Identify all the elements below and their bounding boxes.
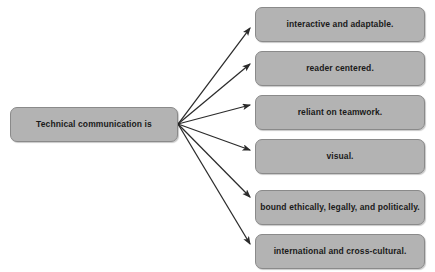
target-node-label: international and cross-cultural.: [274, 247, 407, 257]
target-node-international-and-cross-cultural[interactable]: international and cross-cultural.: [255, 234, 425, 269]
arrow-to-target-3: [178, 124, 250, 150]
target-node-reliant-on-teamwork[interactable]: reliant on teamwork.: [255, 95, 425, 130]
target-node-reader-centered[interactable]: reader centered.: [255, 51, 425, 86]
source-node[interactable]: Technical communication is: [10, 107, 178, 142]
arrow-to-target-4: [178, 124, 250, 197]
target-node-label: reliant on teamwork.: [298, 108, 383, 118]
diagram-canvas: Technical communication is interactive a…: [0, 0, 435, 272]
target-node-bound-ethically-legally-politically[interactable]: bound ethically, legally, and politicall…: [255, 190, 425, 225]
source-node-label: Technical communication is: [36, 120, 152, 130]
target-node-label: bound ethically, legally, and politicall…: [260, 203, 420, 213]
target-node-label: reader centered.: [306, 64, 374, 74]
target-node-interactive-and-adaptable[interactable]: interactive and adaptable.: [255, 7, 425, 42]
arrow-to-target-2: [178, 105, 250, 124]
target-node-label: interactive and adaptable.: [287, 20, 394, 30]
target-node-visual[interactable]: visual.: [255, 139, 425, 174]
arrow-to-target-1: [178, 64, 250, 124]
arrow-to-target-5: [178, 124, 250, 244]
arrow-to-target-0: [178, 28, 250, 124]
target-node-label: visual.: [326, 152, 353, 162]
